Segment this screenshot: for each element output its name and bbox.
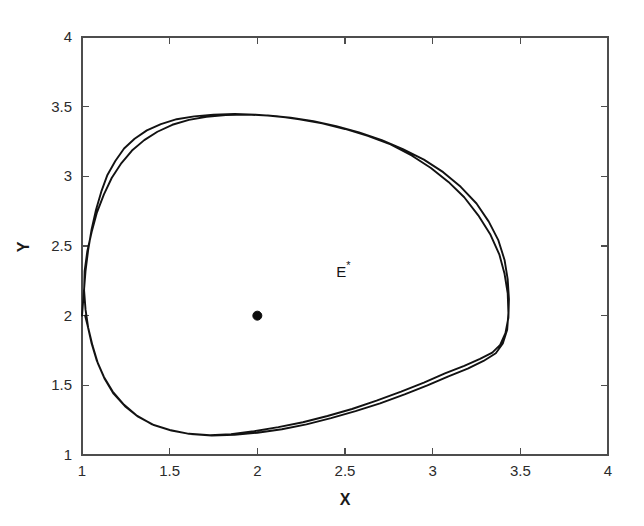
equilibrium-label-superscript: * bbox=[346, 259, 351, 271]
y-tick-label: 1 bbox=[64, 446, 72, 463]
x-tick-label: 3 bbox=[428, 462, 436, 479]
y-tick-label: 2 bbox=[64, 307, 72, 324]
y-tick-label: 1.5 bbox=[51, 376, 72, 393]
x-tick-label: 2.5 bbox=[335, 462, 356, 479]
x-tick-label: 3.5 bbox=[510, 462, 531, 479]
x-tick-label: 4 bbox=[604, 462, 612, 479]
phase-portrait-figure: 11.522.533.54 11.522.533.54 E* X Y bbox=[0, 0, 644, 526]
x-tick-label: 2 bbox=[253, 462, 261, 479]
plot-canvas: 11.522.533.54 11.522.533.54 E* X Y bbox=[0, 0, 644, 526]
equilibrium-point-marker bbox=[253, 311, 262, 320]
x-tick-label: 1.5 bbox=[159, 462, 180, 479]
y-tick-label: 2.5 bbox=[51, 237, 72, 254]
marker-layer bbox=[253, 311, 262, 320]
figure-background bbox=[0, 0, 644, 526]
y-tick-label: 3.5 bbox=[51, 98, 72, 115]
y-tick-label: 3 bbox=[64, 167, 72, 184]
y-axis-title: Y bbox=[15, 241, 32, 252]
x-tick-label: 1 bbox=[78, 462, 86, 479]
y-tick-label: 4 bbox=[64, 28, 72, 45]
equilibrium-label-base: E bbox=[336, 263, 346, 280]
x-axis-title: X bbox=[340, 491, 351, 508]
